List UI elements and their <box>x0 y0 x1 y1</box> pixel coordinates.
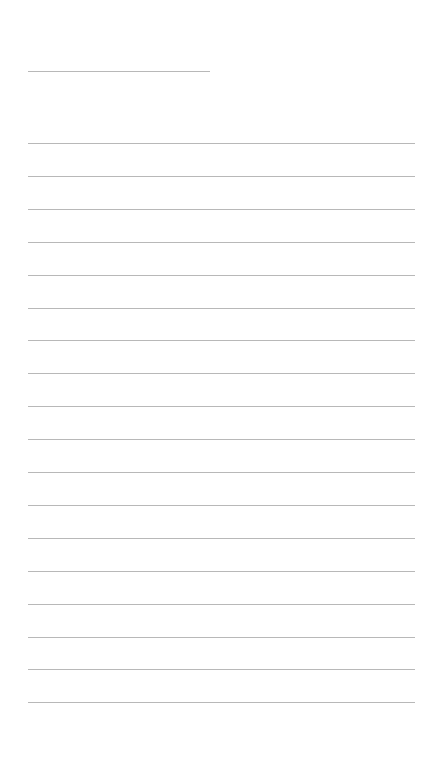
ruled-line-text[interactable] <box>30 584 413 604</box>
ruled-line <box>28 275 415 276</box>
ruled-line-text[interactable] <box>30 255 413 275</box>
ruled-line <box>28 340 415 341</box>
ruled-line <box>28 176 415 177</box>
ruled-line <box>28 472 415 473</box>
ruled-line-text[interactable] <box>30 222 413 242</box>
ruled-line <box>28 538 415 539</box>
ruled-line <box>28 242 415 243</box>
ruled-line <box>28 406 415 407</box>
ruled-line-text[interactable] <box>30 386 413 406</box>
ruled-line <box>28 143 415 144</box>
ruled-line-text[interactable] <box>30 551 413 571</box>
ruled-line-text[interactable] <box>30 156 413 176</box>
ruled-line-text[interactable] <box>30 452 413 472</box>
ruled-line <box>28 702 415 703</box>
ruled-line-text[interactable] <box>30 518 413 538</box>
ruled-line <box>28 209 415 210</box>
ruled-line-text[interactable] <box>30 320 413 340</box>
ruled-line <box>28 505 415 506</box>
ruled-line-text[interactable] <box>30 682 413 702</box>
ruled-line-text[interactable] <box>30 189 413 209</box>
ruled-line <box>28 373 415 374</box>
ruled-line-text[interactable] <box>30 353 413 373</box>
ruled-line-text[interactable] <box>30 123 413 143</box>
ruled-line-text[interactable] <box>30 419 413 439</box>
ruled-line <box>28 571 415 572</box>
lined-page <box>0 0 435 767</box>
ruled-line <box>28 439 415 440</box>
ruled-line-text[interactable] <box>30 617 413 637</box>
ruled-lines-area <box>0 0 435 767</box>
ruled-line <box>28 308 415 309</box>
ruled-line-text[interactable] <box>30 288 413 308</box>
ruled-line-text[interactable] <box>30 649 413 669</box>
ruled-line <box>28 604 415 605</box>
ruled-line <box>28 637 415 638</box>
ruled-line-text[interactable] <box>30 485 413 505</box>
ruled-line <box>28 669 415 670</box>
